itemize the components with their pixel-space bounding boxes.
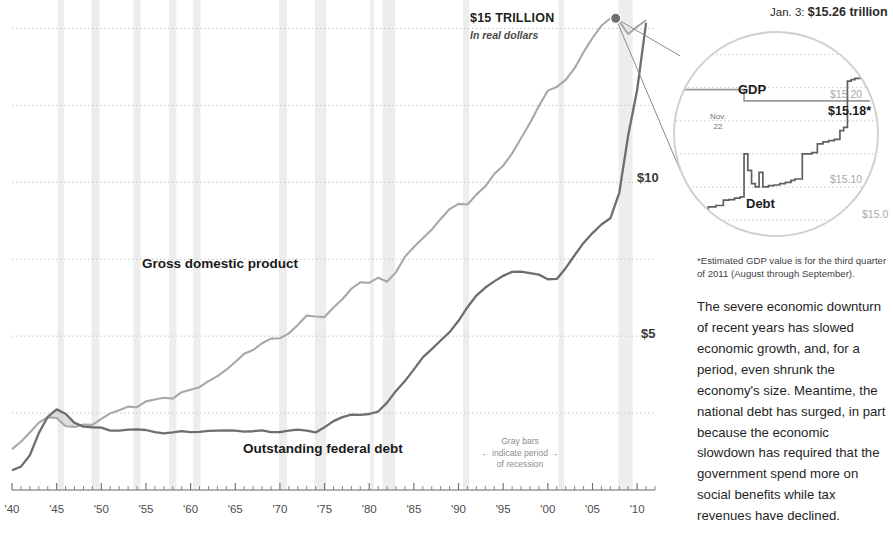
x-tick-label: '05	[585, 503, 600, 515]
chart-title: $15 TRILLION	[470, 11, 554, 25]
x-tick-label: '55	[138, 503, 153, 515]
x-tick-label: '45	[49, 503, 64, 515]
inset-value-1500: $15.0	[862, 208, 888, 220]
x-tick-label: '75	[317, 503, 332, 515]
recession-band	[370, 0, 374, 490]
inset-nov-line1: Nov.	[707, 112, 729, 122]
x-tick-label: '70	[272, 503, 287, 515]
callout-value: $15.26 trillion	[808, 5, 888, 19]
inset-value-1510: $15.10	[830, 173, 862, 185]
y-axis-label-10: $10	[637, 170, 659, 185]
recession-band	[133, 0, 140, 490]
recession-band	[279, 0, 287, 490]
debt-series-label: Outstanding federal debt	[243, 441, 403, 456]
recession-band	[463, 0, 469, 490]
recession-arrow-left: ←	[481, 448, 490, 458]
x-tick-label: '00	[540, 503, 555, 515]
recession-band	[618, 0, 632, 490]
x-tick-label: '65	[228, 503, 243, 515]
inset-gdp-label: GDP	[738, 82, 766, 97]
main-chart: $15 TRILLION In real dollars $10 $5 Gros…	[0, 0, 680, 535]
gdp-label-l1: Gross domestic product	[142, 256, 298, 271]
recession-band	[193, 0, 200, 490]
recession-band	[91, 0, 99, 490]
gdp-series-label: Gross domestic product	[140, 256, 300, 273]
footnote-text: *Estimated GDP value is for the third qu…	[697, 254, 887, 280]
x-tick-label: '50	[94, 503, 109, 515]
callout-dot	[611, 13, 621, 23]
callout-prefix: Jan. 3:	[770, 6, 808, 18]
recession-band	[169, 0, 176, 490]
recession-band	[383, 0, 396, 490]
y-axis-label-5: $5	[641, 326, 655, 341]
recession-band	[559, 0, 564, 490]
recession-note-line3: of recession	[460, 459, 580, 471]
gdp-line	[12, 18, 646, 449]
x-tick-label: '10	[630, 503, 645, 515]
recession-note-line2: ← indicate period →	[460, 448, 580, 460]
side-text-column: *Estimated GDP value is for the third qu…	[697, 254, 887, 527]
x-tick-label: '80	[362, 503, 377, 515]
x-tick-label: '95	[496, 503, 511, 515]
infographic-root: $15 TRILLION In real dollars $10 $5 Gros…	[0, 0, 893, 535]
inset-value-1518: $15.18*	[828, 104, 871, 118]
inset-debt-label: Debt	[746, 196, 775, 211]
recession-band	[315, 0, 327, 490]
inset-nov-line2: 22	[707, 122, 729, 132]
body-paragraph: The severe economic downturn of recent y…	[697, 297, 887, 526]
inset-magnifier	[672, 30, 880, 238]
recession-arrow-right: →	[550, 448, 559, 458]
recession-note: Gray bars ← indicate period → of recessi…	[460, 436, 580, 471]
x-tick-label: '60	[183, 503, 198, 515]
recession-note-mid: indicate period	[492, 448, 548, 458]
x-tick-label: '40	[5, 503, 20, 515]
inset-value-1520: $15.20	[830, 88, 862, 100]
inset-nov-label: Nov. 22	[707, 112, 729, 131]
chart-subtitle: In real dollars	[470, 29, 538, 41]
callout-title: Jan. 3: $15.26 trillion	[770, 5, 888, 19]
x-tick-label: '90	[451, 503, 466, 515]
recession-note-line1: Gray bars	[460, 436, 580, 448]
x-tick-label: '85	[406, 503, 421, 515]
inset-plot-area	[672, 30, 880, 238]
inset-background	[674, 32, 878, 236]
